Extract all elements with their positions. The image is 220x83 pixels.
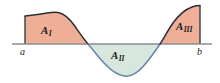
region-A-one-fill	[25, 12, 88, 44]
figure-canvas	[0, 0, 220, 83]
area-under-curve-figure: AI AII AIII a b	[0, 0, 220, 83]
region-label-A-one: AI	[41, 25, 51, 36]
region-label-A-three: AIII	[176, 21, 192, 32]
region-label-A-one-subscript: I	[49, 29, 52, 38]
region-label-A-three-subscript: III	[184, 25, 193, 34]
axis-label-b: b	[197, 47, 202, 57]
region-label-A-two-subscript: II	[119, 54, 125, 63]
region-label-A-two-base: A	[111, 49, 118, 61]
region-label-A-three-base: A	[176, 20, 183, 32]
region-label-A-one-base: A	[41, 24, 48, 36]
region-label-A-two: AII	[111, 50, 124, 61]
axis-label-a: a	[20, 47, 25, 57]
